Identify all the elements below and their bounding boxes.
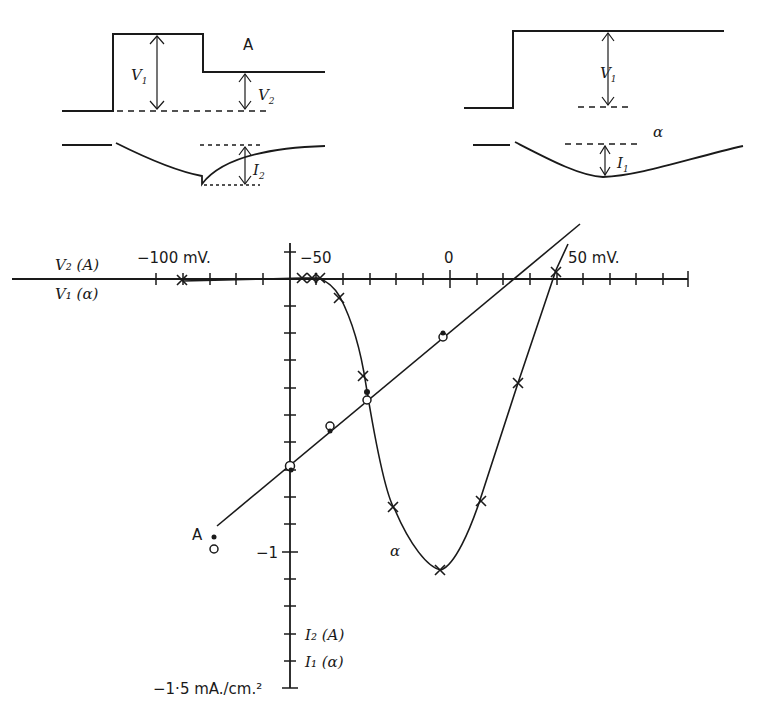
inset-alpha-voltage-trace xyxy=(464,31,724,108)
inset-a-current-trace xyxy=(116,143,325,184)
inset-a-i2-label: I2 xyxy=(252,161,265,181)
curve-alpha-label: α xyxy=(390,542,400,560)
x-tick-label-0: 0 xyxy=(444,249,454,267)
y-axis-label-top: I₂ (A) xyxy=(304,626,344,644)
curve-alpha xyxy=(183,244,568,570)
inset-a-label: A xyxy=(243,36,254,54)
a-open-circle-points xyxy=(210,333,447,553)
y-tick-label-minus-1: −1 xyxy=(256,544,278,562)
x-tick-label-minus-50: −50 xyxy=(300,249,332,267)
x-axis-label-bottom: V₁ (α) xyxy=(55,285,99,303)
inset-alpha xyxy=(464,31,743,177)
line-a xyxy=(217,224,580,526)
inset-a-v1-label: V1 xyxy=(131,66,148,86)
line-a-label: A xyxy=(192,526,203,544)
inset-a-v2-label: V2 xyxy=(258,86,275,106)
inset-alpha-i1-label: I1 xyxy=(616,154,629,174)
x-tick-label-minus-100: −100 mV. xyxy=(137,249,211,267)
inset-a-voltage-trace xyxy=(62,34,325,111)
inset-a xyxy=(62,34,325,185)
y-axis-label-bottom: I₁ (α) xyxy=(304,653,344,671)
x-axis-label-top: V₂ (A) xyxy=(55,256,99,274)
inset-alpha-v1-label: V1 xyxy=(600,64,617,84)
figure-canvas: A V1 V2 I2 α V1 I1 xyxy=(0,0,764,721)
y-tick-label-minus-1-5: −1·5 mA./cm.² xyxy=(153,680,262,698)
alpha-data-points xyxy=(177,267,561,575)
x-axis xyxy=(12,270,688,288)
x-tick-label-50: 50 mV. xyxy=(568,249,620,267)
inset-alpha-current-trace xyxy=(515,142,743,177)
a-filled-dot-points xyxy=(212,331,446,540)
inset-alpha-label: α xyxy=(653,123,663,141)
